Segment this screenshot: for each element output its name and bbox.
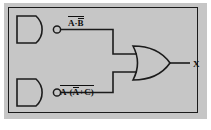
label-bottom-expression: A·(A+C)	[60, 85, 94, 97]
bottom-expr-group-close: )	[91, 87, 94, 97]
wire-top-nand-to-or	[61, 30, 137, 55]
top-expression-overbar-group: A·B	[68, 16, 84, 28]
gate-nand-bottom	[17, 79, 61, 106]
label-output-x: X	[193, 60, 200, 69]
wire-group	[61, 30, 190, 93]
circuit-diagram-root: A·B A·(A+C) X	[0, 0, 211, 130]
gate-or	[133, 46, 170, 80]
nand-bottom-body	[17, 79, 42, 106]
circuit-svg	[0, 0, 211, 130]
nand-top-body	[17, 16, 42, 43]
label-top-expression: A·B	[68, 16, 84, 28]
top-expr-right-term: B	[78, 18, 84, 28]
nand-top-bubble-icon	[53, 26, 60, 33]
gate-nand-top	[17, 16, 61, 43]
or-gate-body	[133, 46, 170, 80]
bottom-expression-overbar-group: A·(A+C)	[60, 85, 94, 97]
